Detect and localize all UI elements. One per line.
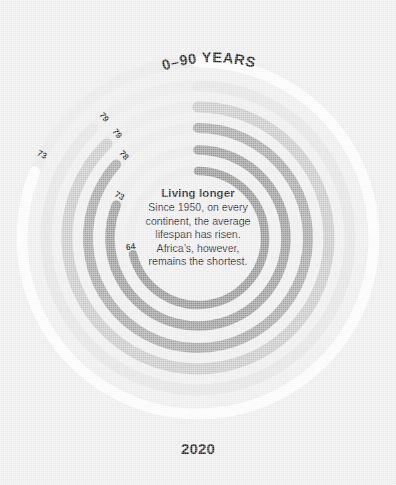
- annotation-line-5: remains the shortest.: [108, 255, 288, 269]
- annotation-line-4: Africa’s, however,: [108, 242, 288, 256]
- annotation-line-2: continent, the average: [108, 215, 288, 229]
- annotation-body: Since 1950, on every continent, the aver…: [108, 201, 288, 269]
- annotation-title: Living longer: [108, 186, 288, 200]
- annotation-line-3: lifespan has risen.: [108, 228, 288, 242]
- axis-end-label: 2020: [0, 440, 396, 457]
- annotation-line-1: Since 1950, on every: [108, 201, 288, 215]
- center-annotation: Living longer Since 1950, on every conti…: [108, 186, 288, 269]
